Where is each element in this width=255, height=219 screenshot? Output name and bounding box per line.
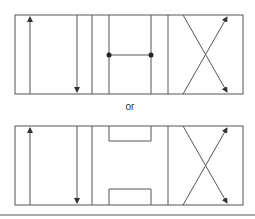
bottom-outer-box: [15, 126, 243, 205]
bottom-valve-symbol: [15, 126, 243, 205]
top-valve-symbol: [15, 15, 243, 94]
top-cross-arrow-down-icon: [183, 15, 227, 92]
bottom-blocked-port: [109, 189, 151, 205]
junction-dot-icon: [149, 53, 154, 58]
bottom-cross-arrow-down-icon: [183, 126, 227, 203]
top-cross-arrow-up-icon: [183, 17, 227, 94]
or-label: or: [118, 101, 142, 112]
bottom-cross-arrow-up-icon: [183, 128, 227, 205]
junction-dot-icon: [107, 53, 112, 58]
top-blocked-port: [109, 126, 151, 141]
